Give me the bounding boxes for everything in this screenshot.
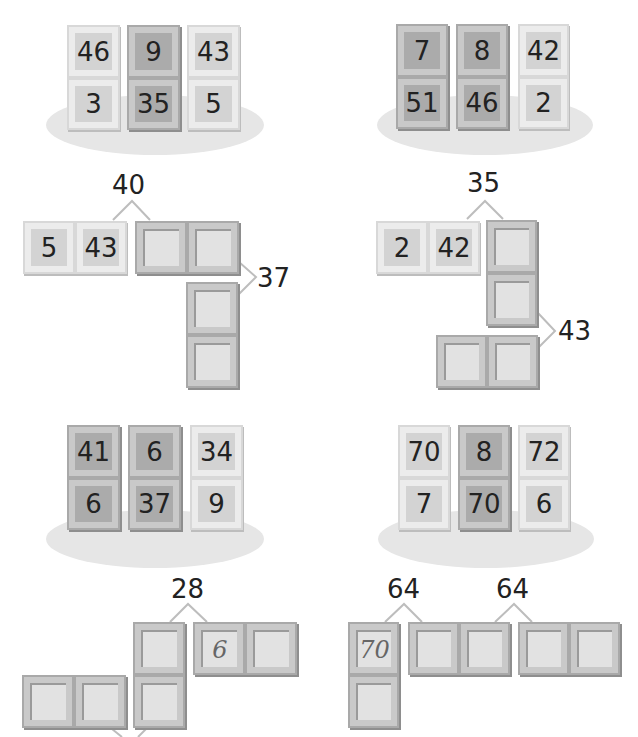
handwritten-answer: 6 [212, 636, 227, 664]
domino-value: 41 [77, 437, 110, 467]
domino-value: 6 [536, 489, 553, 519]
domino-cell: 8 [456, 24, 508, 77]
sum-label-right: 64 [496, 574, 529, 604]
domino-cell: 6 [518, 478, 570, 530]
domino-cell: 43 [187, 25, 240, 78]
domino-value: 5 [41, 233, 58, 263]
domino-cell: 72 [518, 425, 570, 478]
domino-cell: 7 [396, 24, 448, 77]
domino-value: 5 [205, 89, 222, 119]
domino-value: 37 [138, 489, 171, 519]
given-domino-cell: 43 [75, 221, 127, 274]
domino-cell: 35 [127, 78, 180, 130]
domino-value: 3 [85, 89, 102, 119]
answer-cell[interactable] [518, 622, 569, 675]
domino-value: 9 [145, 37, 162, 67]
domino-value: 72 [527, 437, 560, 467]
answer-cell[interactable] [487, 335, 538, 388]
domino-cell: 46 [456, 77, 508, 129]
domino-value: 2 [535, 88, 552, 118]
domino-cell: 9 [190, 478, 243, 530]
given-domino-cell: 2 [376, 221, 428, 274]
answer-cell[interactable] [436, 335, 487, 388]
answer-cell[interactable] [133, 622, 185, 675]
sum-label-left: 64 [387, 574, 420, 604]
domino-value: 6 [146, 437, 163, 467]
answer-cell[interactable] [569, 622, 620, 675]
domino-value: 7 [414, 36, 431, 66]
answer-cell[interactable] [486, 220, 537, 273]
domino-value: 70 [467, 489, 500, 519]
given-domino-cell: 42 [428, 221, 480, 274]
domino-cell: 70 [398, 425, 450, 478]
domino-cell: 6 [67, 478, 120, 530]
domino-value: 43 [84, 233, 117, 263]
answer-cell[interactable] [135, 221, 187, 274]
given-domino-cell: 5 [23, 221, 75, 274]
sum-label-top: 35 [467, 168, 500, 198]
domino-cell: 70 [458, 478, 510, 530]
domino-cell: 3 [67, 78, 120, 130]
answer-cell[interactable] [74, 675, 126, 728]
domino-value: 8 [476, 437, 493, 467]
answer-cell[interactable] [133, 675, 185, 728]
domino-value: 2 [394, 233, 411, 263]
domino-value: 34 [200, 437, 233, 467]
domino-value: 51 [405, 88, 438, 118]
domino-value: 42 [437, 233, 470, 263]
domino-cell: 7 [398, 478, 450, 530]
domino-cell: 8 [458, 425, 510, 478]
domino-value: 46 [465, 88, 498, 118]
sum-label-top: 40 [112, 170, 145, 200]
domino-value: 7 [416, 489, 433, 519]
domino-cell: 46 [67, 25, 120, 78]
answer-cell-filled[interactable]: 70 [348, 622, 399, 675]
domino-cell: 37 [128, 478, 181, 530]
answer-cell[interactable] [245, 622, 297, 675]
domino-cell: 9 [127, 25, 180, 78]
answer-cell[interactable] [186, 282, 238, 335]
handwritten-answer: 70 [359, 636, 390, 664]
answer-cell[interactable] [486, 273, 537, 326]
domino-cell: 51 [396, 77, 448, 129]
domino-value: 42 [527, 36, 560, 66]
answer-cell[interactable] [187, 221, 239, 274]
domino-cell: 6 [128, 425, 181, 478]
sum-label-top: 28 [171, 574, 204, 604]
domino-value: 70 [407, 437, 440, 467]
domino-value: 6 [85, 489, 102, 519]
domino-cell: 2 [518, 77, 569, 129]
domino-cell: 42 [518, 24, 569, 77]
domino-cell: 34 [190, 425, 243, 478]
domino-cell: 5 [187, 78, 240, 130]
answer-cell[interactable] [22, 675, 74, 728]
answer-cell-filled[interactable]: 6 [193, 622, 245, 675]
sum-label-right: 43 [558, 316, 591, 346]
domino-value: 9 [208, 489, 225, 519]
answer-cell[interactable] [348, 675, 399, 728]
answer-cell[interactable] [186, 335, 238, 388]
domino-value: 35 [137, 89, 170, 119]
domino-value: 43 [197, 37, 230, 67]
answer-cell[interactable] [408, 622, 459, 675]
domino-cell: 41 [67, 425, 120, 478]
sum-label-right: 37 [257, 263, 290, 293]
domino-value: 46 [77, 37, 110, 67]
domino-value: 8 [474, 36, 491, 66]
answer-cell[interactable] [459, 622, 510, 675]
